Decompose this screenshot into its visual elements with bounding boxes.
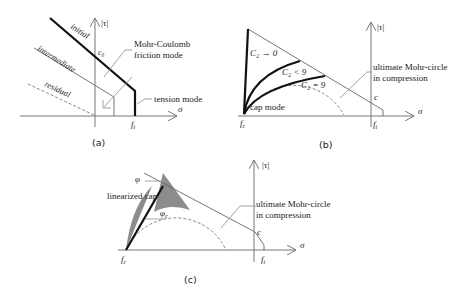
sigma-axis-label: σ [418, 106, 423, 116]
c0-label: c₀ [98, 48, 105, 57]
mohr-coulomb-label-1: Mohr-Coulomb [134, 39, 191, 49]
mohr-circle-label-2: in compression [256, 210, 311, 220]
caption-b: (b) [319, 139, 332, 150]
figure-canvas: |τ| σ residual intermediate initial c₀ M… [0, 0, 458, 297]
cap-mode-label: cap mode [250, 102, 285, 112]
tension-mode-leader [137, 99, 152, 104]
linearized-cap-label: linearized cap [107, 191, 158, 201]
panel-a: |τ| σ residual intermediate initial c₀ M… [20, 18, 202, 148]
sigma-axis-label: σ [300, 240, 305, 250]
tau-axis-label: |τ| [377, 22, 384, 32]
c2-eq-9-label: C₂ = 9 [301, 80, 326, 90]
ft-label: ft [131, 119, 136, 130]
softening-arrow [104, 77, 132, 107]
c2-lt-9-label: C₂ < 9 [282, 67, 307, 77]
mohr-circle-label-2: in compression [373, 73, 428, 83]
sigma-axis-label: σ [178, 104, 183, 114]
phi-label: φ [135, 174, 140, 184]
mohr-coulomb-leader [104, 50, 132, 77]
mohr-circle-label-1: ultimate Mohr-circle [256, 199, 331, 209]
phi-c-label: φc [160, 208, 168, 219]
tau-axis-label: |τ| [101, 18, 108, 28]
residual-label: residual [43, 79, 73, 100]
tau-axis-label: |τ| [262, 160, 269, 170]
c-label: c [257, 227, 261, 237]
c2-to-0-label: C₂ → 0 [250, 48, 278, 58]
caption-a: (a) [92, 137, 105, 148]
c-label: c [374, 92, 378, 102]
panel-c: |τ| σ φ φc linearized cap ultimate Mohr-… [107, 160, 331, 285]
intermediate-label: intermediate [36, 43, 78, 74]
fc-label: fc [240, 118, 246, 129]
tension-mode-label: tension mode [154, 94, 202, 104]
mohr-coulomb-label-2: friction mode [134, 50, 183, 60]
ft-label: ft [373, 119, 378, 130]
panel-b: |τ| σ C₂ → 0 C₂ < 9 C₂ = 9 cap mode ulti… [238, 22, 448, 150]
fc-label: fc [121, 254, 127, 265]
ft-label: ft [261, 254, 266, 265]
caption-c: (c) [184, 274, 197, 285]
mohr-circle-label-1: ultimate Mohr-circle [373, 62, 448, 72]
